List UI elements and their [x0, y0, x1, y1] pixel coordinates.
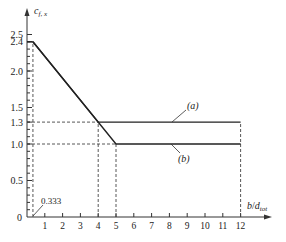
y-axis-label: cf, x: [34, 5, 48, 18]
x-tick-label: 8: [167, 221, 172, 231]
x-tick-label: 9: [185, 221, 190, 231]
y-axis-arrow-icon: [25, 8, 30, 16]
x-tick-label: 11: [218, 221, 227, 231]
y-tick-label: 1.3: [11, 117, 24, 128]
y-tick-label: 2.0: [11, 66, 24, 77]
ticks: [27, 35, 241, 218]
y-tick-label: 0.5: [11, 175, 24, 186]
x-tick-label: 7: [149, 221, 154, 231]
series-a-label: (a): [187, 100, 199, 112]
x-tick-label: 4: [96, 221, 101, 231]
chart: 1234567891011120.51.01.31.52.02.42.5 cf,…: [0, 0, 286, 242]
x-tick-label: 12: [236, 221, 246, 231]
y-tick-label: 1.5: [11, 102, 24, 113]
series-a-leader: [172, 110, 186, 122]
x-tick-label: 2: [60, 221, 65, 231]
series-b-leader: [171, 144, 180, 153]
x-axis-arrow-icon: [264, 215, 272, 220]
series-line: [33, 42, 241, 144]
series-b-label: (b): [178, 153, 190, 165]
x-axis-label: b/dtot: [247, 200, 268, 213]
axes: [25, 8, 273, 220]
x-tick-label: 3: [78, 221, 83, 231]
origin-label: 0: [17, 212, 22, 223]
x-tick-label: 5: [114, 221, 119, 231]
annotation-0333: 0.333: [41, 196, 62, 206]
series: [27, 42, 241, 144]
annotation-0333-leader: [33, 205, 43, 216]
x-tick-label: 10: [200, 221, 210, 231]
reference-lines: [27, 42, 241, 217]
y-tick-label: 1.0: [11, 139, 24, 150]
x-tick-label: 6: [131, 221, 136, 231]
x-tick-label: 1: [42, 221, 47, 231]
series-line: [33, 42, 241, 122]
y-tick-label: 2.5: [11, 29, 24, 40]
